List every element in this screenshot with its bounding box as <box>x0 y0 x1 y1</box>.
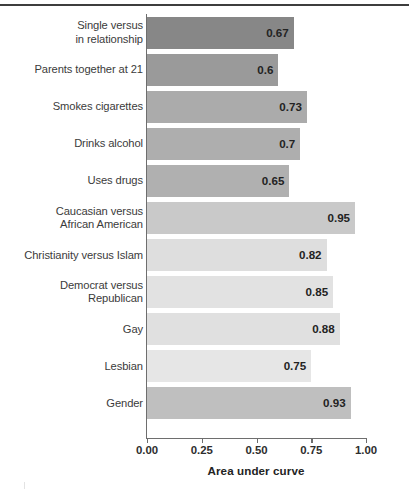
category-label: Smokes cigarettes <box>5 88 143 125</box>
bar-row: Democrat versusRepublican0.85 <box>0 274 409 311</box>
bar-value-label: 0.82 <box>294 239 322 271</box>
bar-track: 0.7 <box>147 128 366 160</box>
category-label: Drinks alcohol <box>5 125 143 162</box>
top-divider-rule <box>0 4 409 6</box>
category-label-line: Single versus <box>77 19 143 32</box>
bar-row: Uses drugs0.65 <box>0 162 409 199</box>
bar-track: 0.6 <box>147 54 366 86</box>
bar-row: Gender0.93 <box>0 385 409 422</box>
bar-value-label: 0.6 <box>245 54 273 86</box>
bar-row: Caucasian versusAfrican American0.95 <box>0 199 409 236</box>
bar-value-label: 0.88 <box>307 313 335 345</box>
bar-row: Christianity versus Islam0.82 <box>0 237 409 274</box>
category-label: Gender <box>5 385 143 422</box>
category-label: Single versusin relationship <box>5 14 143 51</box>
x-tick-mark <box>311 438 312 443</box>
bar-row: Parents together at 210.6 <box>0 51 409 88</box>
bar-row: Drinks alcohol0.7 <box>0 125 409 162</box>
category-label-line: Lesbian <box>105 360 144 373</box>
bar-value-label: 0.75 <box>278 350 306 382</box>
bar-track: 0.93 <box>147 387 366 419</box>
bar-value-label: 0.73 <box>274 91 302 123</box>
bar-value-label: 0.85 <box>300 276 328 308</box>
category-label: Uses drugs <box>5 162 143 199</box>
bar-row: Single versusin relationship0.67 <box>0 14 409 51</box>
x-axis-title: Area under curve <box>146 464 366 477</box>
bar-track: 0.82 <box>147 239 366 271</box>
category-label: Christianity versus Islam <box>5 237 143 274</box>
x-tick-label: 0.50 <box>245 444 267 456</box>
bar-track: 0.67 <box>147 17 366 49</box>
x-tick-label: 0.00 <box>136 444 158 456</box>
bar-row: Smokes cigarettes0.73 <box>0 88 409 125</box>
x-tick-label: 1.00 <box>355 444 377 456</box>
x-tick-mark <box>366 438 367 443</box>
x-tick-mark <box>257 438 258 443</box>
category-label-line: Parents together at 21 <box>34 63 143 76</box>
bar-track: 0.95 <box>147 202 366 234</box>
bar-rows: Single versusin relationship0.67Parents … <box>0 14 409 422</box>
bar-track: 0.65 <box>147 165 366 197</box>
category-label-line: Caucasian versus <box>56 205 143 218</box>
bar-track: 0.85 <box>147 276 366 308</box>
bar-chart-figure: Single versusin relationship0.67Parents … <box>0 0 409 496</box>
x-tick-label: 0.75 <box>300 444 322 456</box>
category-label-line: Uses drugs <box>87 174 143 187</box>
category-label-line: African American <box>60 218 143 231</box>
bar-value-label: 0.93 <box>318 387 346 419</box>
category-label-line: Smokes cigarettes <box>53 100 143 113</box>
bar-value-label: 0.7 <box>267 128 295 160</box>
corner-artifact-mark <box>22 482 27 489</box>
category-label: Lesbian <box>5 348 143 385</box>
category-label-line: Gay <box>123 323 143 336</box>
bar-value-label: 0.67 <box>261 17 289 49</box>
y-axis-spine <box>146 14 147 438</box>
x-tick-label: 0.25 <box>191 444 213 456</box>
bar-row: Gay0.88 <box>0 311 409 348</box>
category-label: Caucasian versusAfrican American <box>5 199 143 236</box>
category-label-line: in relationship <box>75 33 143 46</box>
bar-value-label: 0.65 <box>256 165 284 197</box>
category-label: Gay <box>5 311 143 348</box>
bar-value-label: 0.95 <box>322 202 350 234</box>
plot-area: Single versusin relationship0.67Parents … <box>0 14 409 438</box>
category-label-line: Gender <box>106 397 143 410</box>
category-label-line: Drinks alcohol <box>74 137 143 150</box>
bar-track: 0.75 <box>147 350 366 382</box>
category-label-line: Republican <box>88 292 143 305</box>
category-label: Parents together at 21 <box>5 51 143 88</box>
x-tick-mark <box>147 438 148 443</box>
x-tick-mark <box>202 438 203 443</box>
category-label-line: Christianity versus Islam <box>24 249 143 262</box>
bar-track: 0.88 <box>147 313 366 345</box>
category-label: Democrat versusRepublican <box>5 274 143 311</box>
bar-row: Lesbian0.75 <box>0 348 409 385</box>
category-label-line: Democrat versus <box>60 279 143 292</box>
bar-track: 0.73 <box>147 91 366 123</box>
